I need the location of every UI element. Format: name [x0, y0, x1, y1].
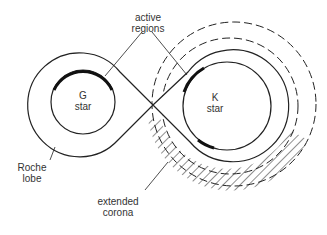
leader-active-k [152, 32, 187, 75]
leader-active-g [105, 32, 142, 76]
label-active-regions: active regions [118, 12, 178, 34]
label-roche-lobe: Roche lobe [14, 162, 50, 184]
label-k-star: K star [200, 92, 230, 114]
leader-corona [145, 162, 168, 190]
binary-star-diagram [0, 0, 327, 235]
label-extended-corona: extended corona [88, 196, 148, 218]
label-g-star: G star [68, 90, 98, 112]
